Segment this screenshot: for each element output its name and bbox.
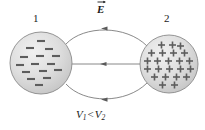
- vector-arrow-icon: [97, 0, 106, 4]
- field-line-top: [66, 30, 147, 46]
- electric-field-label: E: [97, 4, 104, 15]
- less-than-operator: <: [86, 108, 94, 120]
- potential-relation-label: V1<V2: [76, 109, 105, 122]
- sphere-1-negative: [10, 32, 72, 94]
- potential-v2-subscript: 2: [101, 113, 105, 122]
- physics-figure-electric-field: 1 2 E V1<V2: [0, 0, 205, 130]
- arrowhead-bottom-icon: [101, 98, 108, 102]
- potential-v1-symbol: V: [76, 108, 83, 120]
- field-arrowheads-group: [100, 26, 108, 101]
- field-line-bottom: [66, 83, 147, 99]
- sphere-2-label: 2: [164, 13, 170, 24]
- electric-field-symbol: E: [97, 3, 104, 15]
- sphere-1-label: 1: [33, 13, 39, 24]
- sphere-2-positive: [140, 35, 198, 93]
- arrowhead-middle-icon: [100, 62, 107, 66]
